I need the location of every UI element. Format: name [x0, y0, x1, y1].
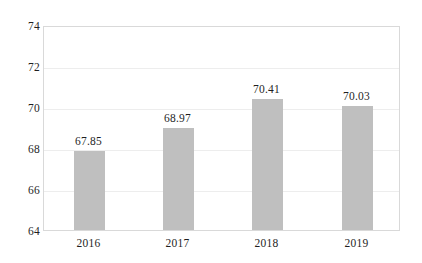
bar-chart: 74 72 70 68 66 64 67.85 68.97 70.41 70.0… — [0, 0, 422, 263]
bar-2018 — [252, 99, 283, 230]
plot-area — [43, 26, 400, 231]
bar-2017 — [163, 128, 194, 230]
bar-2019 — [342, 106, 373, 230]
x-axis-tick-2016: 2016 — [53, 237, 124, 250]
data-label-2016: 67.85 — [53, 135, 124, 148]
data-label-2017: 68.97 — [142, 112, 213, 125]
x-axis-tick-2017: 2017 — [142, 237, 213, 250]
gridline-72 — [44, 68, 399, 69]
y-axis-tick-68: 68 — [6, 143, 40, 155]
y-axis-tick-72: 72 — [6, 61, 40, 73]
y-axis-tick-74: 74 — [6, 20, 40, 32]
x-axis-tick-2018: 2018 — [231, 237, 302, 250]
x-axis-tick-2019: 2019 — [321, 237, 392, 250]
bar-2016 — [74, 151, 105, 230]
y-axis-tick-66: 66 — [6, 184, 40, 196]
y-axis-tick-70: 70 — [6, 102, 40, 114]
y-axis-tick-64: 64 — [6, 225, 40, 237]
data-label-2018: 70.41 — [231, 83, 302, 96]
y-axis: 74 72 70 68 66 64 — [0, 0, 40, 263]
data-label-2019: 70.03 — [321, 90, 392, 103]
